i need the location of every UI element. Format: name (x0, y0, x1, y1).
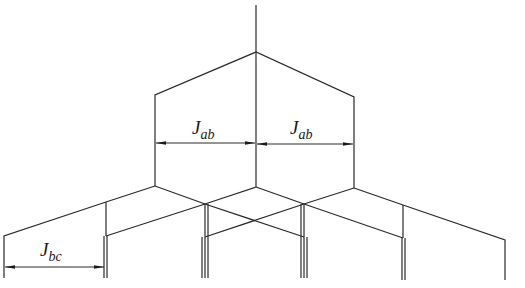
left-inner-rafter (106, 204, 205, 236)
center-left-rafter (205, 187, 256, 204)
truss-diagram (0, 0, 525, 288)
label-jab-right: Jab (290, 118, 312, 142)
upper-frame (155, 52, 354, 188)
right-inner-rafter (304, 204, 403, 238)
center-right-rafter (256, 187, 304, 204)
right-outer-frame (354, 188, 505, 280)
diagram-canvas: Jab Jab Jbc (0, 0, 525, 288)
label-jab-left: Jab (192, 118, 214, 142)
label-jbc: Jbc (40, 240, 62, 264)
left-outer-frame (4, 186, 155, 278)
